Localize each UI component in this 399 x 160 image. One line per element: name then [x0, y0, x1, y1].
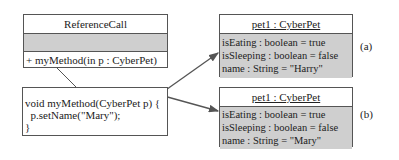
attr-row: isSleeping : boolean = false [220, 121, 352, 134]
note-line: p.setName("Mary"); [25, 109, 167, 121]
object-title-text: pet1 : CyberPet [252, 18, 320, 30]
label-a: (a) [360, 40, 372, 52]
attr-row: isSleeping : boolean = false [220, 49, 352, 62]
object-title: pet1 : CyberPet [220, 15, 352, 34]
attr-row: isEating : boolean = true [220, 36, 352, 49]
note-code: void myMethod(CyberPet p) { p.setName("M… [23, 88, 167, 133]
attr-row: name : String = "Harry" [220, 62, 352, 75]
note-line: void myMethod(CyberPet p) { [25, 97, 167, 109]
attributes-compartment [24, 34, 167, 52]
operation-row: + myMethod(in p : CyberPet) [24, 52, 167, 68]
object-box-a: pet1 : CyberPet isEating : boolean = tru… [219, 14, 353, 77]
class-box-referencecall: ReferenceCall + myMethod(in p : CyberPet… [23, 14, 168, 68]
note-line: } [25, 121, 167, 133]
object-title-text: pet1 : CyberPet [252, 91, 320, 103]
object-attributes: isEating : boolean = true isSleeping : b… [220, 107, 352, 149]
attr-row: name : String = "Mary" [220, 134, 352, 147]
attr-row: isEating : boolean = true [220, 108, 352, 121]
note-anchor-line [56, 67, 76, 87]
class-name: ReferenceCall [24, 15, 167, 34]
label-b: (b) [360, 108, 373, 120]
method-note-box: void myMethod(CyberPet p) { p.setName("M… [22, 87, 168, 136]
object-attributes: isEating : boolean = true isSleeping : b… [220, 34, 352, 78]
object-title: pet1 : CyberPet [220, 88, 352, 107]
object-box-b: pet1 : CyberPet isEating : boolean = tru… [219, 87, 353, 147]
